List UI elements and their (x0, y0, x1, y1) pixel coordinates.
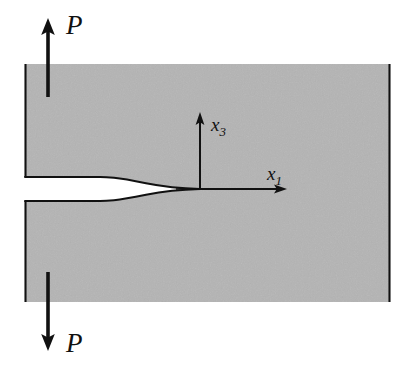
crack-diagram: P P x3 x1 (0, 0, 413, 368)
body-fill (25, 64, 390, 302)
load-label-top: P (65, 10, 83, 40)
figure-canvas: P P x3 x1 (0, 0, 413, 368)
load-label-bottom: P (65, 328, 83, 358)
lower-body-fill (25, 189, 390, 302)
cracked-body (25, 64, 390, 302)
upper-body-fill (25, 64, 390, 189)
